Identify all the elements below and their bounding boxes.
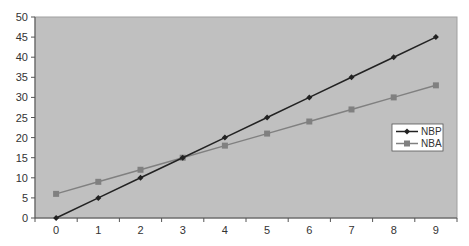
- square-marker-icon: [433, 82, 439, 88]
- y-tick-label: 20: [16, 132, 28, 144]
- square-marker-icon: [222, 143, 228, 149]
- plot-area: [35, 17, 457, 218]
- x-tick-label: 3: [180, 224, 186, 236]
- square-marker-icon: [138, 167, 144, 173]
- y-tick-label: 0: [22, 212, 28, 224]
- legend-label-nba: NBA: [421, 138, 442, 149]
- legend: NBP NBA: [392, 124, 443, 151]
- square-marker-icon: [264, 131, 270, 137]
- y-tick-label: 40: [16, 51, 28, 63]
- y-tick-label: 15: [16, 152, 28, 164]
- x-tick-label: 8: [391, 224, 397, 236]
- y-tick-label: 30: [16, 91, 28, 103]
- x-axis: 0123456789: [35, 218, 457, 236]
- y-tick-label: 45: [16, 31, 28, 43]
- x-tick-label: 0: [53, 224, 59, 236]
- legend-label-nbp: NBP: [421, 126, 442, 137]
- x-tick-label: 4: [222, 224, 228, 236]
- square-marker-icon: [391, 94, 397, 100]
- square-marker-icon: [306, 119, 312, 125]
- square-marker-icon: [349, 106, 355, 112]
- y-tick-label: 10: [16, 172, 28, 184]
- x-tick-label: 9: [433, 224, 439, 236]
- line-chart: 05101520253035404550 0123456789 NBP NBA: [0, 0, 469, 246]
- y-tick-label: 35: [16, 71, 28, 83]
- x-tick-label: 2: [137, 224, 143, 236]
- y-axis: 05101520253035404550: [16, 11, 35, 224]
- x-tick-label: 6: [306, 224, 312, 236]
- square-marker-icon: [53, 191, 59, 197]
- square-marker-icon: [404, 141, 410, 147]
- square-marker-icon: [95, 179, 101, 185]
- y-tick-label: 5: [22, 192, 28, 204]
- x-tick-label: 7: [348, 224, 354, 236]
- x-tick-label: 1: [95, 224, 101, 236]
- x-tick-label: 5: [264, 224, 270, 236]
- y-tick-label: 25: [16, 112, 28, 124]
- y-tick-label: 50: [16, 11, 28, 23]
